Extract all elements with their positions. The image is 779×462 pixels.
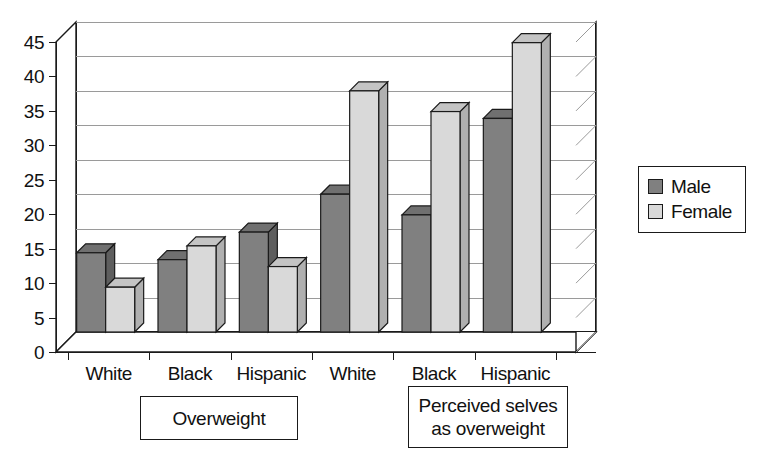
plot-area: 051015202530354045 WhiteBlackHispanicWhi…: [56, 22, 596, 352]
x-axis-tick: [556, 352, 557, 360]
legend-item-female: Female: [648, 199, 736, 224]
y-axis-label: 45: [10, 33, 44, 52]
legend: Male Female: [638, 166, 746, 233]
legend-label-male: Male: [671, 177, 711, 196]
bar-3d-faces-female: [56, 22, 596, 352]
y-axis-label: 5: [10, 309, 44, 328]
annotation-perceived-selves: Perceived selves as overweight: [408, 386, 568, 448]
x-axis-tick: [312, 352, 313, 360]
x-axis-line: [56, 352, 596, 353]
annotation-overweight-text: Overweight: [172, 407, 265, 430]
legend-swatch-male: [648, 179, 663, 194]
y-axis-label: 35: [10, 102, 44, 121]
y-axis-label: 0: [10, 343, 44, 362]
y-axis-tick: [49, 352, 57, 353]
x-axis-label-hispanic-5: Hispanic: [465, 363, 566, 384]
y-axis-label: 15: [10, 240, 44, 259]
y-axis-label: 10: [10, 274, 44, 293]
annotation-perceived-line1: Perceived selves: [419, 395, 558, 416]
x-axis-tick: [149, 352, 150, 360]
y-axis-label: 40: [10, 67, 44, 86]
y-axis-label: 20: [10, 205, 44, 224]
y-axis-label: 30: [10, 136, 44, 155]
x-axis-tick: [393, 352, 394, 360]
legend-label-female: Female: [671, 202, 732, 221]
x-axis-tick: [68, 352, 69, 360]
x-axis-tick: [231, 352, 232, 360]
chart-root: 051015202530354045 WhiteBlackHispanicWhi…: [0, 0, 779, 462]
x-axis-tick: [475, 352, 476, 360]
y-axis-label: 25: [10, 171, 44, 190]
annotation-perceived-line2: as overweight: [431, 418, 544, 439]
annotation-perceived-text: Perceived selves as overweight: [419, 394, 558, 440]
annotation-overweight: Overweight: [140, 396, 298, 440]
legend-item-male: Male: [648, 174, 736, 199]
legend-swatch-female: [648, 204, 663, 219]
